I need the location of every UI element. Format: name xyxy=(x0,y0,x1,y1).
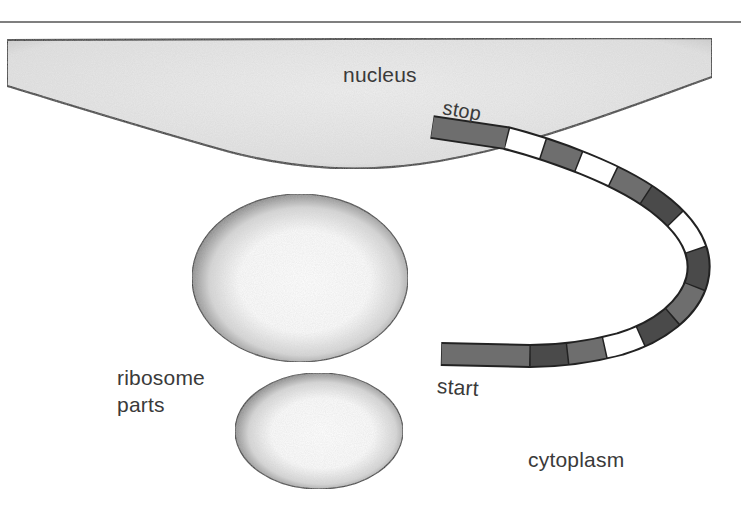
nucleus-label: nucleus xyxy=(343,63,417,87)
mrna-strand xyxy=(432,127,699,356)
nucleus xyxy=(7,38,712,168)
ribosome-small-subunit xyxy=(235,373,403,489)
ribosome-large-subunit xyxy=(192,194,408,362)
start-codon-label: start xyxy=(436,374,479,401)
ribosome-parts-label-line1: ribosome xyxy=(117,366,205,390)
ribosome-parts-label-line2: parts xyxy=(117,393,165,417)
cytoplasm-label: cytoplasm xyxy=(528,448,624,472)
